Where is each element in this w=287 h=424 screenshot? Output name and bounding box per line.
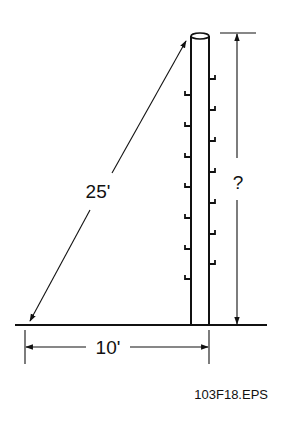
base-label: 10' bbox=[96, 337, 121, 358]
pole-top bbox=[191, 33, 209, 39]
utility-pole bbox=[191, 33, 209, 325]
pole-diagram: 25' ? 10' 103F18.EPS bbox=[0, 0, 287, 424]
height-label: ? bbox=[233, 172, 244, 193]
hypotenuse-label: 25' bbox=[86, 181, 111, 202]
figure-caption: 103F18.EPS bbox=[194, 387, 268, 402]
